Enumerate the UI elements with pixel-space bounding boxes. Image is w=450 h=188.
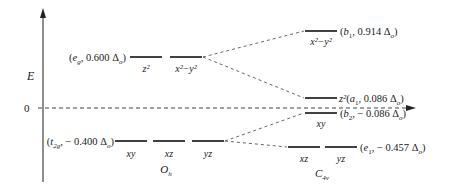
a1-label: z²(a1, 0.086 Δo) xyxy=(338,93,404,107)
energy-axis xyxy=(40,8,46,182)
orbital-yz-c4v: yz xyxy=(336,153,345,164)
correlation-lines xyxy=(203,31,304,147)
axis-label-e: E xyxy=(26,69,35,83)
orbital-xz-oh: xz xyxy=(164,148,173,159)
e1-label: (e1, − 0.457 Δo) xyxy=(360,142,426,156)
orbital-xy-oh: xy xyxy=(126,148,136,159)
oh-symmetry-label: Oh xyxy=(160,163,172,178)
orbital-x2y2-oh: x²−y² xyxy=(174,63,198,74)
orbital-yz-oh: yz xyxy=(203,148,212,159)
c4v-symmetry-label: C4v xyxy=(315,167,330,182)
axis-arrow-icon xyxy=(40,8,46,18)
crystal-field-diagram: E 0 (eg, 0.600 Δo) z² x²−y² (t2g, − 0.40… xyxy=(0,0,450,188)
orbital-z2-oh: z² xyxy=(142,63,151,74)
t2g-label: (t2g, − 0.400 Δo) xyxy=(47,136,115,150)
orbital-xy-c4v: xy xyxy=(316,118,326,129)
orbital-x2y2-c4v: x²−y² xyxy=(309,36,333,47)
b1-label: (b1, 0.914 Δo) xyxy=(340,26,398,40)
b2-label: (b2, − 0.086 Δo) xyxy=(340,108,407,122)
orbital-xz-c4v: xz xyxy=(299,153,308,164)
axis-label-zero: 0 xyxy=(24,102,30,114)
eg-label: (eg, 0.600 Δo) xyxy=(69,52,126,66)
zero-arrow-icon xyxy=(406,105,416,111)
